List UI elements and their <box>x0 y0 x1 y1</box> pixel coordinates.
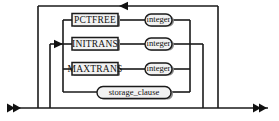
nonterminal-integer-1-label: integer <box>147 14 171 24</box>
nonterminal-integer-3-label: integer <box>147 63 171 73</box>
row-storage-clause: storage_clause <box>97 87 173 100</box>
left-fanout-column <box>63 20 97 92</box>
nonterminal-integer-2-label: integer <box>147 38 171 48</box>
right-fanin-column <box>172 20 203 108</box>
row-maxtrans: MAXTRANS integer <box>68 63 181 76</box>
syntax-diagram: PCTFREE integer INITRANS integer MAXTRAN… <box>0 0 279 121</box>
entry-arrow-icon <box>7 104 21 113</box>
branch-arrow-icon <box>54 40 63 48</box>
left-branch-spine <box>50 44 63 108</box>
terminal-maxtrans-label: MAXTRANS <box>68 64 123 74</box>
railroad-diagram-canvas: PCTFREE integer INITRANS integer MAXTRAN… <box>0 0 279 121</box>
loopback-arrow-icon <box>119 2 128 10</box>
terminal-pctfree-label: PCTFREE <box>74 15 116 25</box>
exit-arrow-icon <box>253 104 267 113</box>
row-pctfree: PCTFREE integer <box>72 14 181 27</box>
nonterminal-storage-clause-label: storage_clause <box>109 87 160 97</box>
row-initrans: INITRANS integer <box>72 38 181 51</box>
terminal-initrans-label: INITRANS <box>72 39 118 49</box>
